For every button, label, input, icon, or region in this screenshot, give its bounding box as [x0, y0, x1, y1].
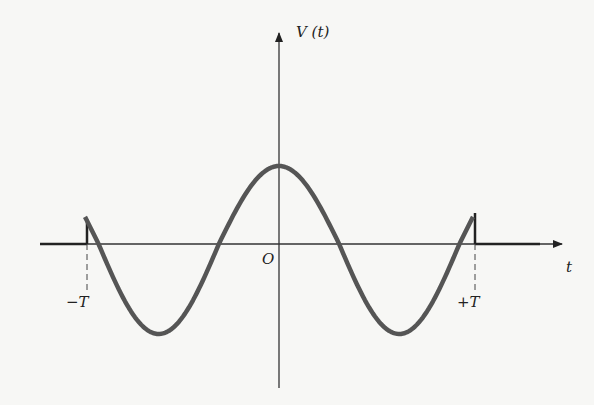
origin-label: O	[262, 250, 274, 268]
v-axis-label: V (t)	[296, 23, 329, 41]
pos-T-label: +T	[457, 293, 480, 311]
t-axis-label: t	[566, 258, 572, 276]
diagram-canvas: V (t) t O −T +T	[0, 0, 594, 405]
plot-svg	[0, 0, 594, 405]
neg-T-label: −T	[66, 293, 89, 311]
